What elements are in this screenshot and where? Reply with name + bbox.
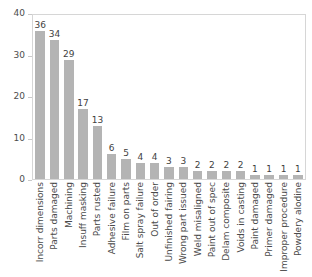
x-axis-label: Voids in casting bbox=[233, 182, 247, 277]
x-axis-label: Parts rusted bbox=[90, 182, 104, 277]
bar[interactable]: 3 bbox=[179, 15, 188, 179]
bar-rect bbox=[50, 40, 59, 179]
bar-value-label: 1 bbox=[252, 164, 258, 174]
y-axis-tick-label: 10 bbox=[14, 133, 25, 144]
bar[interactable]: 1 bbox=[279, 15, 288, 179]
x-axis-label-text: Out of order bbox=[150, 182, 159, 237]
y-axis-tick-label: 0 bbox=[19, 174, 25, 185]
x-axis-label-text: Adhesive failure bbox=[107, 182, 116, 254]
x-axis-label: Wrong part issued bbox=[176, 182, 190, 277]
bar-rect bbox=[136, 163, 145, 179]
x-axis-label-text: Film on parts bbox=[122, 182, 131, 240]
x-axis-label: Film on parts bbox=[119, 182, 133, 277]
x-axis-label: Paint damaged bbox=[248, 182, 262, 277]
bar[interactable]: 36 bbox=[35, 15, 44, 179]
x-axis-label-text: Unfinished fairing bbox=[164, 182, 173, 261]
x-axis-label: Improper procedure bbox=[276, 182, 290, 277]
bar[interactable]: 1 bbox=[250, 15, 259, 179]
bar-value-label: 3 bbox=[166, 156, 172, 166]
bar-value-label: 1 bbox=[295, 164, 301, 174]
x-axis-label-text: Parts rusted bbox=[93, 182, 102, 236]
x-axis-label-text: Insuff masking bbox=[79, 182, 88, 248]
x-axis-labels: Incorr dimensionsParts damagedMachiningI… bbox=[33, 182, 305, 277]
y-axis-tick-mark bbox=[28, 97, 32, 98]
x-axis-label: Out of order bbox=[148, 182, 162, 277]
bar[interactable]: 2 bbox=[236, 15, 245, 179]
x-axis-label: Adhesive failure bbox=[105, 182, 119, 277]
bar-rect bbox=[107, 154, 116, 179]
bar[interactable]: 6 bbox=[107, 15, 116, 179]
x-axis-label: Primer damaged bbox=[262, 182, 276, 277]
x-axis-label-text: Primer damaged bbox=[265, 182, 274, 257]
bar-rect bbox=[179, 167, 188, 179]
x-axis-label: Paint out of spec bbox=[205, 182, 219, 277]
x-axis-label-text: Salt spray failure bbox=[136, 182, 145, 258]
bar[interactable]: 2 bbox=[222, 15, 231, 179]
bar-rect bbox=[236, 171, 245, 179]
bar-chart: 010203040 363429171365443322221111 Incor… bbox=[0, 0, 312, 277]
bar-value-label: 29 bbox=[63, 49, 74, 59]
bar-value-label: 4 bbox=[137, 152, 143, 162]
bar-value-label: 2 bbox=[223, 160, 229, 170]
bar-rect bbox=[164, 167, 173, 179]
bar-rect bbox=[250, 175, 259, 179]
bar[interactable]: 5 bbox=[121, 15, 130, 179]
x-axis-label-text: Powdery alodine bbox=[293, 182, 302, 256]
y-axis-tick-mark bbox=[28, 139, 32, 140]
bar-value-label: 1 bbox=[266, 164, 272, 174]
bar[interactable]: 2 bbox=[207, 15, 216, 179]
x-axis-label-text: Machining bbox=[64, 182, 73, 228]
x-axis-label-text: Wrong part issued bbox=[179, 182, 188, 264]
y-axis-tick-label: 40 bbox=[14, 8, 25, 19]
bar[interactable]: 29 bbox=[64, 15, 73, 179]
x-axis-label-text: Paint damaged bbox=[250, 182, 259, 250]
bar-rect bbox=[121, 159, 130, 180]
bar-value-label: 5 bbox=[123, 148, 129, 158]
bar[interactable]: 34 bbox=[50, 15, 59, 179]
bar-value-label: 2 bbox=[195, 160, 201, 170]
y-axis-tick-label: 30 bbox=[14, 50, 25, 61]
bar-value-label: 2 bbox=[209, 160, 215, 170]
x-axis-label-text: Voids in casting bbox=[236, 182, 245, 252]
x-axis-label-text: Weld misaligned bbox=[193, 182, 202, 256]
bar-rect bbox=[35, 31, 44, 179]
bar-rect bbox=[207, 171, 216, 179]
bar-rect bbox=[64, 60, 73, 179]
bar-value-label: 3 bbox=[180, 156, 186, 166]
bar-value-label: 1 bbox=[281, 164, 287, 174]
bar[interactable]: 2 bbox=[193, 15, 202, 179]
bar[interactable]: 1 bbox=[293, 15, 302, 179]
bar[interactable]: 3 bbox=[164, 15, 173, 179]
y-axis-tick-mark bbox=[28, 14, 32, 15]
x-axis-label-text: Parts damaged bbox=[50, 182, 59, 250]
x-axis-label: Delam composite bbox=[219, 182, 233, 277]
bar[interactable]: 4 bbox=[150, 15, 159, 179]
bar-rect bbox=[193, 171, 202, 179]
bar-rect bbox=[222, 171, 231, 179]
bar[interactable]: 13 bbox=[93, 15, 102, 179]
bar[interactable]: 17 bbox=[78, 15, 87, 179]
bar-value-label: 2 bbox=[238, 160, 244, 170]
bar-value-label: 17 bbox=[77, 98, 88, 108]
x-axis-label: Parts damaged bbox=[47, 182, 61, 277]
x-axis-label-text: Paint out of spec bbox=[207, 182, 216, 257]
x-axis-label-text: Incorr dimensions bbox=[36, 182, 45, 262]
bar-rect bbox=[279, 175, 288, 179]
bar-value-label: 34 bbox=[49, 29, 60, 39]
bar-rect bbox=[78, 109, 87, 179]
x-axis-label: Unfinished fairing bbox=[162, 182, 176, 277]
x-axis-label: Weld misaligned bbox=[190, 182, 204, 277]
y-axis-tick-mark bbox=[28, 56, 32, 57]
x-axis-label: Incorr dimensions bbox=[33, 182, 47, 277]
bar-rect bbox=[293, 175, 302, 179]
bar[interactable]: 1 bbox=[264, 15, 273, 179]
bar-rect bbox=[264, 175, 273, 179]
bars-area: 363429171365443322221111 bbox=[33, 15, 305, 179]
bar-value-label: 4 bbox=[152, 152, 158, 162]
x-axis-label: Machining bbox=[62, 182, 76, 277]
bar[interactable]: 4 bbox=[136, 15, 145, 179]
x-axis-label-text: Delam composite bbox=[222, 182, 231, 261]
y-axis: 010203040 bbox=[0, 14, 32, 180]
x-axis-label-text: Improper procedure bbox=[279, 182, 288, 272]
x-axis-label: Powdery alodine bbox=[291, 182, 305, 277]
